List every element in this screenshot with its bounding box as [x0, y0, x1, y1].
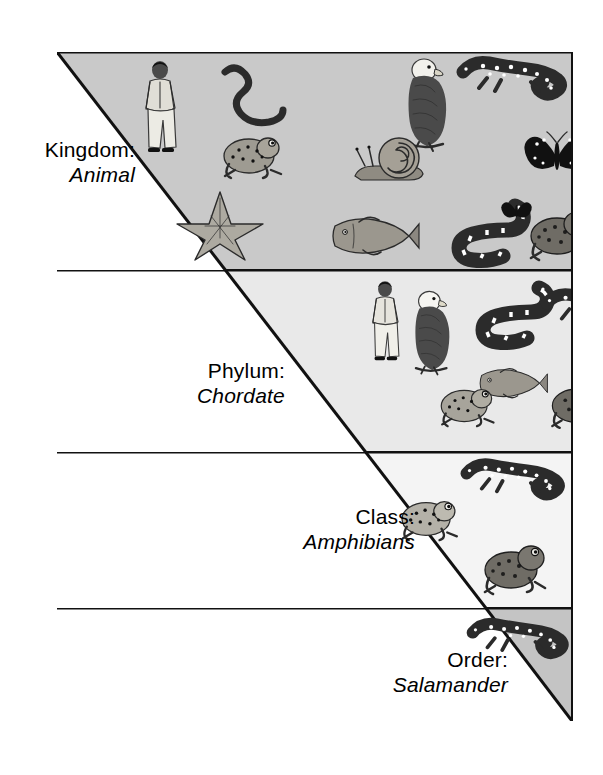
organism-human	[137, 58, 183, 158]
label-order: Order: Salamander	[270, 648, 508, 698]
organism-toad	[545, 376, 572, 430]
label-kingdom: Kingdom: Animal	[0, 138, 135, 188]
label-class-taxon: Amphibians	[180, 530, 415, 555]
divider-kingdom-phylum	[225, 269, 573, 271]
label-order-rank: Order:	[270, 648, 508, 673]
label-phylum-rank: Phylum:	[60, 359, 285, 384]
label-class-rank: Class:	[180, 505, 415, 530]
organism-butterfly-small	[501, 200, 531, 222]
divider-class-order	[485, 607, 573, 609]
organism-frog	[433, 382, 499, 430]
organism-salamander	[457, 54, 565, 106]
organism-frog	[215, 130, 287, 182]
organism-human	[365, 278, 405, 366]
label-phylum: Phylum: Chordate	[60, 359, 285, 409]
organism-salamander	[541, 286, 572, 336]
organism-butterfly	[525, 130, 572, 182]
label-class: Class: Amphibians	[180, 505, 415, 555]
divider-phylum-class	[365, 451, 573, 453]
taxonomy-triangle-diagram: Kingdom: Animal Phylum: Chordate Class: …	[0, 0, 603, 775]
label-kingdom-rank: Kingdom:	[0, 138, 135, 163]
organism-earthworm	[217, 62, 291, 134]
organism-snail	[347, 134, 427, 186]
organism-salamander	[461, 456, 563, 506]
chart-right-border	[571, 52, 573, 721]
organism-starfish	[175, 188, 265, 262]
organism-eagle	[405, 288, 461, 376]
label-kingdom-taxon: Animal	[0, 163, 135, 188]
label-order-taxon: Salamander	[270, 673, 508, 698]
label-phylum-taxon: Chordate	[60, 384, 285, 409]
organism-fish	[329, 212, 421, 262]
organism-toad	[477, 538, 553, 596]
